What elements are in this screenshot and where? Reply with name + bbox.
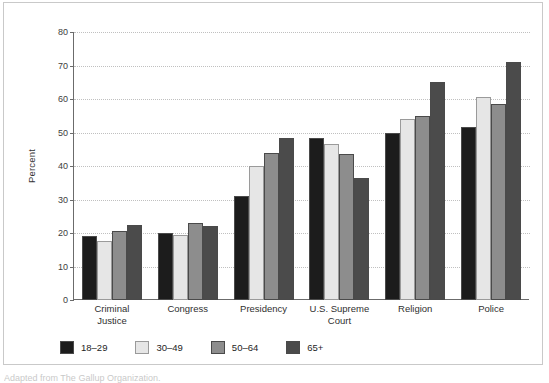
legend-item[interactable]: 50–64: [211, 341, 258, 354]
y-axis-tick-label: 60: [58, 95, 68, 104]
bar: [400, 119, 415, 300]
bar: [354, 178, 369, 300]
bar: [264, 153, 279, 300]
x-axis-category-label: Religion: [377, 303, 453, 315]
x-axis-category-label: U.S. SupremeCourt: [302, 303, 378, 326]
legend-item[interactable]: 18–29: [60, 341, 107, 354]
x-axis-category-label: CriminalJustice: [74, 303, 150, 326]
bar: [112, 231, 127, 300]
x-axis-category-label-line: Court: [302, 315, 378, 327]
y-axis-tick-label: 80: [58, 28, 68, 37]
bar-chart: Percent 01020304050607080 CriminalJustic…: [4, 3, 544, 366]
y-axis-tick-label: 50: [58, 128, 68, 137]
x-axis-category-label: Presidency: [226, 303, 302, 315]
bar: [309, 138, 324, 300]
x-axis-category-label-line: Religion: [377, 303, 453, 315]
bar: [279, 138, 294, 300]
bar-group: [453, 32, 529, 300]
bar: [415, 116, 430, 300]
legend-swatch: [135, 341, 149, 354]
legend-item[interactable]: 30–49: [135, 341, 182, 354]
legend-swatch: [60, 341, 74, 354]
x-axis-category-label-line: Justice: [74, 315, 150, 327]
figure-caption: Adapted from The Gallup Organization.: [4, 373, 384, 383]
figure-frame: Percent 01020304050607080 CriminalJustic…: [3, 2, 543, 365]
y-axis-tick-label: 10: [58, 262, 68, 271]
legend-item[interactable]: 65+: [286, 341, 323, 354]
y-axis-tick-label: 70: [58, 61, 68, 70]
bar-group: [377, 32, 453, 300]
y-axis-tick-label: 20: [58, 229, 68, 238]
bar: [506, 62, 521, 300]
x-axis-category-label-line: Presidency: [226, 303, 302, 315]
bar: [324, 144, 339, 300]
y-axis-title: Percent: [26, 32, 40, 300]
y-axis-tick-label: 0: [63, 296, 68, 305]
x-axis-category-label: Congress: [150, 303, 226, 315]
bar-group: [226, 32, 302, 300]
bar: [203, 226, 218, 300]
bars-layer: [74, 32, 529, 300]
y-axis-tick-mark: [70, 300, 74, 301]
bar: [430, 82, 445, 300]
legend-label: 50–64: [232, 342, 258, 353]
legend-swatch: [286, 341, 300, 354]
legend-label: 65+: [307, 342, 323, 353]
bar: [476, 97, 491, 300]
x-axis-category-labels: CriminalJusticeCongressPresidencyU.S. Su…: [74, 303, 529, 331]
chart-legend: 18–2930–4950–6465+: [60, 341, 351, 354]
y-axis-tick-label: 40: [58, 162, 68, 171]
x-axis-category-label-line: Congress: [150, 303, 226, 315]
bar: [82, 236, 97, 300]
bar: [491, 104, 506, 300]
bar: [234, 196, 249, 300]
bar: [173, 235, 188, 300]
bar: [127, 225, 142, 300]
x-axis-category-label-line: U.S. Supreme: [302, 303, 378, 315]
bar: [188, 223, 203, 300]
x-axis-category-label: Police: [453, 303, 529, 315]
bar-group: [302, 32, 378, 300]
legend-label: 30–49: [156, 342, 182, 353]
bar-group: [150, 32, 226, 300]
x-axis-category-label-line: Criminal: [74, 303, 150, 315]
bar-group: [74, 32, 150, 300]
legend-swatch: [211, 341, 225, 354]
bar: [249, 166, 264, 300]
y-axis-tick-label: 30: [58, 195, 68, 204]
bar: [339, 154, 354, 300]
bar: [97, 241, 112, 300]
bar: [158, 233, 173, 300]
bar: [385, 133, 400, 301]
bar: [461, 127, 476, 300]
x-axis-category-label-line: Police: [453, 303, 529, 315]
legend-label: 18–29: [81, 342, 107, 353]
